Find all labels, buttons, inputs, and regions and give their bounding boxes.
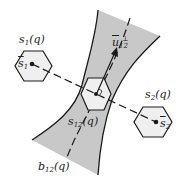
label-s12-q: s12(q) [68, 116, 98, 129]
point-s2 [154, 120, 159, 125]
point-s1 [30, 62, 35, 67]
label-s2-bar: s2 [160, 118, 170, 131]
label-s1-q: s1(q) [19, 34, 45, 47]
label-s1-bar: s1 [18, 58, 28, 71]
label-u12-perp: u12⊥ [112, 36, 129, 50]
label-b12-q: b12(q) [38, 161, 70, 174]
point-s12 [94, 92, 98, 96]
label-s2-q: s2(q) [145, 89, 171, 102]
